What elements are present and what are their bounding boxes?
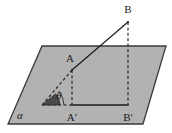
point-dot-a — [71, 69, 73, 71]
point-label-a-prime: A′ — [67, 111, 77, 123]
geometry-figure: B A A′ B′ θ α — [0, 0, 172, 133]
plane-label-alpha: α — [17, 109, 23, 121]
angle-label-theta: θ — [56, 89, 62, 101]
point-dot-b — [127, 21, 129, 23]
point-label-b-prime: B′ — [123, 111, 133, 123]
point-label-b: B — [124, 3, 131, 15]
point-label-a: A — [66, 52, 74, 64]
figure-canvas: B A A′ B′ θ α — [0, 0, 172, 133]
